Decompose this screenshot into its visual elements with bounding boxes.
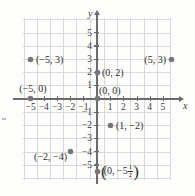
point-neg2-neg4[interactable]	[68, 149, 73, 154]
y-tick	[94, 151, 99, 152]
point-0-2[interactable]	[95, 70, 100, 75]
y-tick-label-neg3: −3	[72, 134, 92, 144]
point-label-0-0: (0, 0)	[99, 86, 121, 96]
x-tick	[57, 96, 58, 101]
x-tick-label-5: 5	[158, 103, 168, 113]
y-tick	[94, 112, 99, 113]
y-tick-label-3: 3	[74, 55, 92, 65]
point-label-1-neg2: (1, −2)	[116, 121, 143, 131]
point-label-0-neg5-and-half: ((0, −512)	[101, 164, 139, 179]
x-tick	[83, 96, 84, 101]
x-tick	[150, 96, 151, 101]
y-tick-label-neg5: −5	[72, 161, 92, 171]
point-neg5-3[interactable]	[28, 57, 33, 62]
paren-close: )	[133, 165, 139, 179]
y-tick	[94, 32, 99, 33]
y-tick	[94, 138, 99, 139]
y-tick-label-neg2: −2	[72, 121, 92, 131]
point-label-0-2: (0, 2)	[102, 68, 124, 78]
x-tick-label-3: 3	[132, 103, 142, 113]
x-tick-label-4: 4	[145, 103, 155, 113]
y-tick-label-neg1: −1	[72, 108, 92, 118]
scan-artifact	[2, 118, 6, 120]
x-tick	[70, 96, 71, 101]
point-label-neg5-3: (−5, 3)	[36, 55, 63, 65]
y-tick	[94, 45, 99, 46]
y-tick-label-5: 5	[74, 29, 92, 39]
x-axis-label: x	[183, 101, 187, 111]
point-1-neg2[interactable]	[108, 123, 113, 128]
fraction-numerator: 1	[128, 164, 132, 171]
point-label-neg5-0: (−5, 0)	[12, 84, 54, 94]
fraction-denominator: 2	[128, 171, 132, 179]
x-tick	[44, 96, 45, 101]
coordinate-plane-figure: x y −5 −4 −3 −2 −1 1 2 3 4 5 5 4 3 2 1 −…	[0, 0, 195, 196]
point-label-5-3: (5, 3)	[128, 55, 166, 65]
point-5-3[interactable]	[169, 57, 174, 62]
y-axis-label: y	[88, 9, 92, 19]
y-axis-arrow-icon	[94, 10, 100, 15]
x-tick	[163, 96, 164, 101]
y-tick	[94, 125, 99, 126]
x-tick	[110, 96, 111, 101]
x-tick-label-2: 2	[118, 103, 128, 113]
fraction-one-half: 12	[128, 164, 132, 179]
point-label-neg2-neg4: (−2, −4)	[17, 152, 67, 162]
point-0-neg5-and-half[interactable]	[95, 169, 100, 174]
point-label-prefix: (0, −5	[104, 166, 128, 176]
y-tick-label-1: 1	[74, 81, 92, 91]
y-tick	[94, 164, 99, 165]
x-tick	[137, 96, 138, 101]
y-tick-label-neg4: −4	[72, 148, 92, 158]
y-tick-label-2: 2	[74, 68, 92, 78]
point-0-0[interactable]	[95, 96, 100, 101]
y-tick	[94, 59, 99, 60]
x-tick-label-1: 1	[105, 103, 115, 113]
x-tick	[123, 96, 124, 101]
y-tick-label-4: 4	[74, 42, 92, 52]
